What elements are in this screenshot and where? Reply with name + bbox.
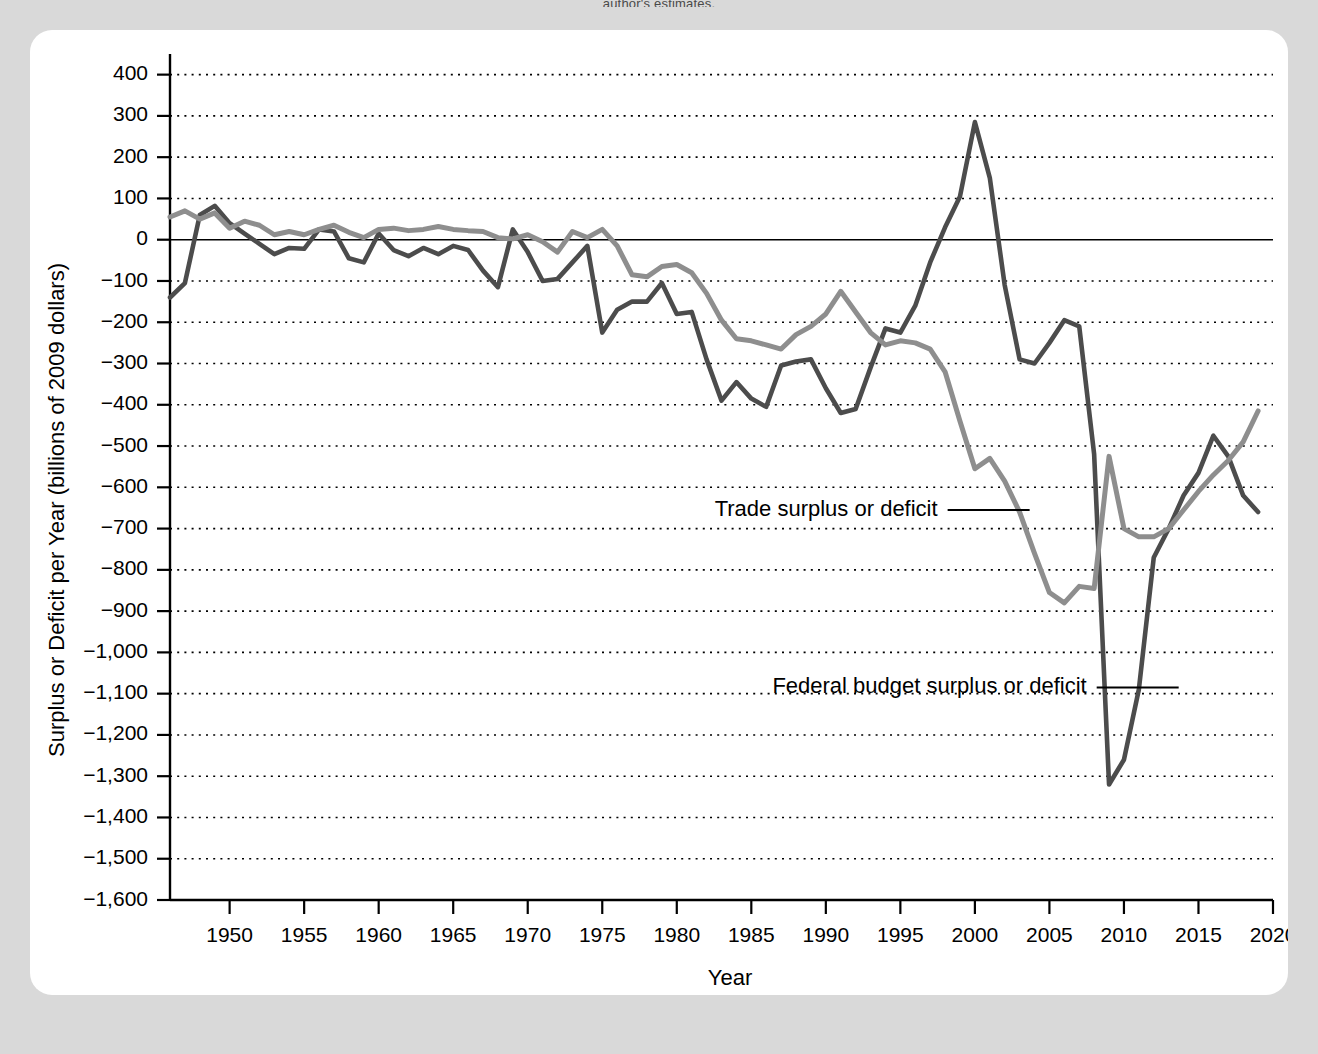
y-tick-label: −1,600 bbox=[83, 887, 148, 910]
x-tick-label: 2005 bbox=[1026, 923, 1073, 946]
y-tick-label: −1,200 bbox=[83, 721, 148, 744]
y-tick-label: −600 bbox=[101, 474, 148, 497]
y-tick-label: −500 bbox=[101, 433, 148, 456]
x-tick-label: 1990 bbox=[802, 923, 849, 946]
y-tick-label: 200 bbox=[113, 144, 148, 167]
budget-annotation: Federal budget surplus or deficit bbox=[772, 673, 1086, 698]
trade-annotation: Trade surplus or deficit bbox=[715, 496, 938, 521]
y-axis-title: Surplus or Deficit per Year (billions of… bbox=[44, 263, 69, 757]
series-line-budget bbox=[170, 122, 1258, 784]
y-tick-label: −1,000 bbox=[83, 639, 148, 662]
line-chart: 4003002001000−100−200−300−400−500−600−70… bbox=[30, 30, 1288, 995]
x-tick-label: 2000 bbox=[952, 923, 999, 946]
y-tick-label: −1,500 bbox=[83, 845, 148, 868]
data-series bbox=[170, 122, 1258, 784]
y-tick-label: −800 bbox=[101, 556, 148, 579]
y-tick-label: 100 bbox=[113, 185, 148, 208]
y-tick-label: −100 bbox=[101, 268, 148, 291]
x-tick-label: 1980 bbox=[653, 923, 700, 946]
x-tick-label: 1995 bbox=[877, 923, 924, 946]
x-tick-label: 1970 bbox=[504, 923, 551, 946]
x-axis-title: Year bbox=[708, 965, 752, 990]
y-tick-label: −300 bbox=[101, 350, 148, 373]
x-tick-label: 1960 bbox=[355, 923, 402, 946]
chart-figure: 4003002001000−100−200−300−400−500−600−70… bbox=[30, 30, 1288, 995]
x-tick-label: 1975 bbox=[579, 923, 626, 946]
y-tick-label: −400 bbox=[101, 391, 148, 414]
y-tick-labels: 4003002001000−100−200−300−400−500−600−70… bbox=[83, 61, 148, 909]
y-tick-label: −900 bbox=[101, 598, 148, 621]
x-tick-label: 1950 bbox=[206, 923, 253, 946]
x-tick-label: 1985 bbox=[728, 923, 775, 946]
y-tick-label: 400 bbox=[113, 61, 148, 84]
y-tick-label: 0 bbox=[136, 226, 148, 249]
figure-card: 4003002001000−100−200−300−400−500−600−70… bbox=[30, 30, 1288, 995]
x-tick-labels: 1950195519601965197019751980198519901995… bbox=[206, 923, 1288, 946]
y-tick-label: 300 bbox=[113, 102, 148, 125]
y-tick-label: −200 bbox=[101, 309, 148, 332]
y-tick-label: −1,300 bbox=[83, 763, 148, 786]
x-tick-label: 2015 bbox=[1175, 923, 1222, 946]
x-tick-label: 1955 bbox=[281, 923, 328, 946]
x-tick-label: 2010 bbox=[1101, 923, 1148, 946]
x-tick-label: 1965 bbox=[430, 923, 477, 946]
y-tick-label: −700 bbox=[101, 515, 148, 538]
y-tick-label: −1,400 bbox=[83, 804, 148, 827]
y-tick-label: −1,100 bbox=[83, 680, 148, 703]
series-line-trade bbox=[170, 211, 1258, 603]
top-caption: author's estimates. bbox=[0, 0, 1318, 7]
x-tick-label: 2020 bbox=[1250, 923, 1288, 946]
series-annotations: Trade surplus or deficitFederal budget s… bbox=[715, 496, 1179, 698]
